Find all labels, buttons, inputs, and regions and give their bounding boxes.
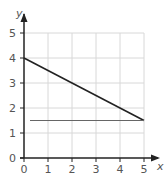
y-tick-label: 2 <box>9 102 16 115</box>
y-tick-label: 3 <box>9 77 16 90</box>
x-axis-label: x <box>156 160 164 173</box>
x-tick-label: 1 <box>45 163 52 176</box>
y-tick-label: 5 <box>9 27 16 40</box>
y-tick-label: 4 <box>9 52 16 65</box>
line-chart: 012345012345yx <box>0 0 166 178</box>
y-tick-label: 1 <box>9 127 16 140</box>
y-tick-label: 0 <box>9 152 16 165</box>
x-tick-label: 3 <box>93 163 100 176</box>
x-tick-label: 4 <box>117 163 124 176</box>
y-axis-label: y <box>15 7 23 20</box>
x-tick-label: 5 <box>141 163 148 176</box>
x-tick-label: 2 <box>69 163 76 176</box>
series-line <box>24 58 144 121</box>
x-tick-label: 0 <box>21 163 28 176</box>
